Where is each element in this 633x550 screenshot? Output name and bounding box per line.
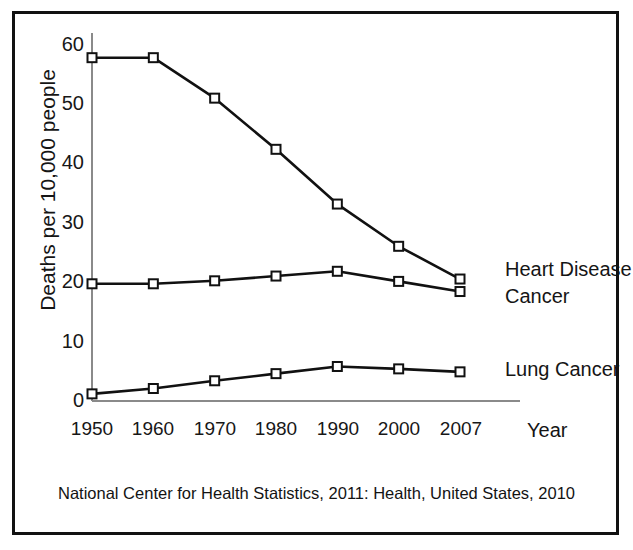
x-tick-label: 2007 <box>430 418 492 440</box>
x-axis-title: Year <box>527 419 567 442</box>
x-tick-label: 1980 <box>245 418 307 440</box>
x-tick-label: 1990 <box>307 418 369 440</box>
x-tick-label: 1970 <box>184 418 246 440</box>
chart-figure: Deaths per 10,000 people 60 50 40 30 20 … <box>0 0 633 550</box>
series-label-heart-disease: Heart Disease <box>505 258 632 281</box>
series-label-cancer: Cancer <box>505 285 569 308</box>
y-tick-label: 60 <box>40 34 84 54</box>
y-tick-label: 30 <box>40 212 84 232</box>
y-tick-label: 0 <box>40 390 84 410</box>
y-tick-label: 20 <box>40 271 84 291</box>
y-tick-label: 10 <box>40 331 84 351</box>
y-tick-label: 50 <box>40 93 84 113</box>
chart-caption: National Center for Health Statistics, 2… <box>0 484 633 503</box>
y-tick-label: 40 <box>40 152 84 172</box>
series-label-lung-cancer: Lung Cancer <box>505 358 620 381</box>
x-tick-label: 1950 <box>61 418 123 440</box>
x-tick-label: 1960 <box>122 418 184 440</box>
x-tick-label: 2000 <box>368 418 430 440</box>
